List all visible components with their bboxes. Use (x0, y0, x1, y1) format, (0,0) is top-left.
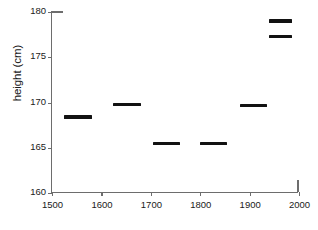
data-marker (64, 115, 91, 118)
data-marker (113, 103, 141, 106)
y-tick-label: 160 (30, 186, 46, 197)
data-marker (153, 142, 180, 145)
y-tick: 180 (48, 12, 52, 13)
y-tick-label: 175 (30, 50, 46, 61)
data-marker (269, 19, 291, 22)
axis-right-stub (297, 180, 298, 192)
y-tick-label: 165 (30, 141, 46, 152)
data-marker (269, 35, 291, 38)
y-tick-label: 180 (30, 5, 46, 16)
y-tick: 165 (48, 148, 52, 149)
x-tick-label: 2000 (289, 199, 310, 210)
y-tick-label: 170 (30, 96, 46, 107)
data-marker (200, 142, 227, 145)
x-tick-label: 1700 (141, 199, 162, 210)
x-tick: 1500 (52, 192, 53, 196)
plot-area: 160165170175180 150016001700180019002000 (51, 12, 298, 193)
y-tick: 170 (48, 103, 52, 104)
x-tick: 1700 (151, 192, 152, 196)
data-marker (240, 104, 267, 107)
x-tick: 1800 (200, 192, 201, 196)
axis-top-stub (51, 11, 63, 12)
chart-figure: height (cm) 160165170175180 150016001700… (0, 0, 318, 230)
y-axis-label: height (cm) (11, 13, 23, 133)
x-tick-label: 1500 (42, 199, 63, 210)
x-tick-label: 1800 (190, 199, 211, 210)
x-tick-label: 1600 (91, 199, 112, 210)
x-tick-label: 1900 (240, 199, 261, 210)
x-tick: 2000 (299, 192, 300, 196)
x-tick: 1900 (250, 192, 251, 196)
x-tick: 1600 (101, 192, 102, 196)
y-tick: 175 (48, 57, 52, 58)
